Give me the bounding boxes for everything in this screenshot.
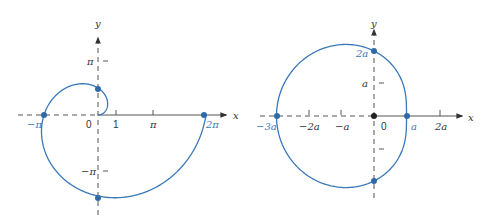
left-x-label: x <box>233 110 239 121</box>
left-tick-label-y-pi: π <box>86 56 94 67</box>
left-tick-label-1: 1 <box>113 119 119 130</box>
right-y-label: y <box>370 18 377 29</box>
right-point-label-a: a <box>411 121 417 132</box>
spiral-curve <box>41 84 206 198</box>
left-spiral-plot: y x 0 1 π π −π −π 2π <box>18 18 239 215</box>
right-origin-label: 0 <box>381 121 387 132</box>
limacon-point-a <box>404 113 410 119</box>
left-tick-label-y-negpi: −π <box>81 166 96 177</box>
right-point-label-neg3a: −3a <box>256 121 277 132</box>
spiral-point-top <box>95 86 101 92</box>
limacon-point-bottom <box>371 178 377 184</box>
right-tick-label-2a: 2a <box>434 121 447 132</box>
right-tick-label-y-a: a <box>362 78 368 89</box>
left-point-label-2pi: 2π <box>205 119 219 130</box>
right-point-label-2a: 2a <box>355 48 368 59</box>
spiral-point-2pi <box>201 112 207 118</box>
spiral-point-bottom <box>95 195 101 201</box>
left-tick-label-pi: π <box>149 119 157 130</box>
spiral-point-negpi <box>41 112 47 118</box>
left-point-label-negpi: −π <box>27 119 42 130</box>
right-tick-label-neg2a: −2a <box>299 121 320 132</box>
right-origin-dot <box>371 113 377 119</box>
limacon-point-neg3a <box>274 113 280 119</box>
diagram-canvas: y x 0 1 π π −π −π 2π y x 0 −2a −a 2a a −… <box>0 0 487 221</box>
right-limacon-plot: y x 0 −2a −a 2a a −3a a 2a <box>256 18 474 198</box>
right-tick-label-nega: −a <box>335 121 349 132</box>
right-x-label: x <box>468 112 474 123</box>
left-origin-label: 0 <box>86 119 92 130</box>
limacon-point-2a <box>371 48 377 54</box>
left-y-label: y <box>94 18 101 29</box>
